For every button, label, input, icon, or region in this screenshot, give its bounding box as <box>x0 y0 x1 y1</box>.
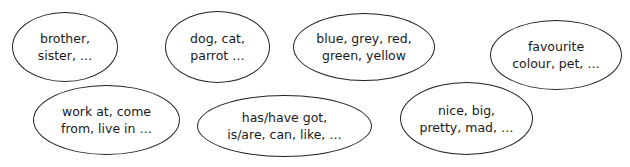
bubble-text-line: pretty, mad, … <box>420 119 514 136</box>
bubble-text-line: blue, grey, red, <box>316 30 411 47</box>
bubble-text-line: parrot … <box>190 47 244 64</box>
bubble-verbs-basic: has/have got, is/are, can, like, … <box>197 95 372 157</box>
bubble-favourites: favourite colour, pet, … <box>490 20 622 90</box>
bubble-text-line: nice, big, <box>438 102 495 119</box>
bubble-text-line: green, yellow <box>322 47 406 64</box>
bubble-family: brother, sister, … <box>12 12 118 82</box>
bubble-text-line: sister, … <box>38 47 93 64</box>
bubble-pets: dog, cat, parrot … <box>165 11 270 83</box>
bubble-text-line: colour, pet, … <box>512 55 600 72</box>
bubble-adjectives: nice, big, pretty, mad, … <box>400 82 533 155</box>
bubble-text-line: is/are, can, like, … <box>227 126 342 143</box>
bubble-text-line: brother, <box>40 30 90 47</box>
bubble-text-line: from, live in … <box>61 120 152 137</box>
bubble-text-line: work at, come <box>62 103 151 120</box>
bubble-text-line: has/have got, <box>242 109 327 126</box>
bubble-text-line: favourite <box>528 38 584 55</box>
bubble-text-line: dog, cat, <box>190 30 245 47</box>
bubble-colours: blue, grey, red, green, yellow <box>293 13 435 81</box>
bubble-verbs-places: work at, come from, live in … <box>33 85 180 155</box>
